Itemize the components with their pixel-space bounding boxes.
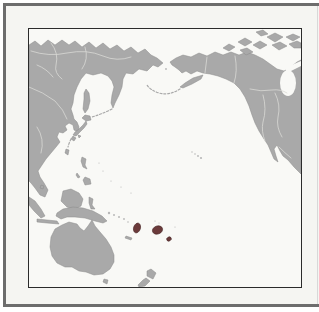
- micronesia-dot-2: [102, 170, 103, 171]
- screen: [0, 0, 319, 312]
- pacific-map[interactable]: [29, 29, 301, 287]
- solomon-island-4: [123, 218, 125, 220]
- hawaii-dot-4: [200, 157, 202, 159]
- st-lawrence-island: [165, 68, 167, 70]
- hawaii-dot-1: [191, 151, 192, 152]
- hudson-bay: [280, 70, 296, 96]
- micronesia-dot-5: [130, 192, 131, 193]
- solomon-island-3: [118, 216, 120, 218]
- window-frame: [3, 3, 319, 307]
- solomon-island-5: [127, 221, 129, 223]
- tuvalu-dot-1: [154, 220, 155, 221]
- micronesia-dot-4: [120, 186, 121, 187]
- map-panel[interactable]: [28, 28, 302, 288]
- window-right-edge: [317, 6, 318, 304]
- landmass-hainan: [40, 185, 44, 189]
- micronesia-dot-1: [98, 162, 99, 163]
- hawaii-dot-3: [197, 155, 199, 157]
- tuvalu-dot-2: [159, 223, 160, 224]
- hawaii-dot-2: [194, 153, 196, 155]
- solomon-island-2: [113, 214, 115, 216]
- samoa-dot: [174, 226, 175, 227]
- micronesia-dot-3: [110, 180, 111, 181]
- solomon-island-1: [108, 212, 110, 214]
